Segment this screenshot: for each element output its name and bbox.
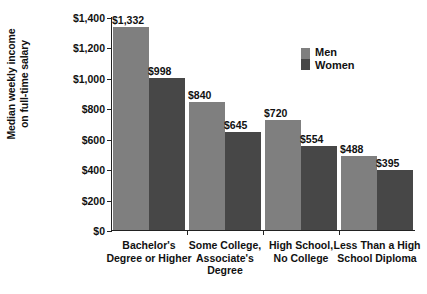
y-tick-mark: [107, 109, 111, 110]
bar-women: [377, 170, 413, 230]
x-category-label-line: Some College,: [181, 239, 269, 252]
legend-label-women: Women: [315, 60, 355, 71]
legend-labels: Men Women: [315, 47, 355, 71]
x-category-label: Less Than a HighSchool Diploma: [333, 239, 421, 264]
x-category-label-line: School Diploma: [333, 252, 421, 265]
x-group-separator-tick: [339, 231, 340, 235]
x-category-label: Some College,Associate'sDegree: [181, 239, 269, 277]
bar-value-label: $840: [188, 90, 211, 101]
y-axis-title-line2: on full-time salary: [18, 8, 31, 160]
legend-swatches: [301, 48, 310, 70]
y-axis-title: Median weekly income on full-time salary: [5, 8, 49, 160]
x-group-separator-tick: [263, 231, 264, 235]
bar-men: [113, 27, 149, 230]
x-category-label-line: No College: [257, 252, 345, 265]
y-axis-tick-labels: $1,400$1,200$1,000$800$600$400$200$0: [49, 0, 105, 294]
x-category-label: Bachelor'sDegree or Higher: [105, 239, 193, 264]
plot-area: [111, 17, 415, 231]
x-category-label-line: Associate's: [181, 252, 269, 265]
y-tick-mark: [107, 170, 111, 171]
bar-value-label: $998: [148, 66, 171, 77]
x-category-label: High School,No College: [257, 239, 345, 264]
y-axis-title-line1: Median weekly income: [5, 8, 18, 160]
x-category-label-line: Less Than a High: [333, 239, 421, 252]
bar-women: [225, 132, 261, 230]
bar-value-label: $645: [224, 120, 247, 131]
bar-value-label: $720: [264, 108, 287, 119]
bar-value-label: $395: [376, 158, 399, 169]
y-tick-label: $200: [49, 196, 105, 206]
y-tick-mark: [107, 79, 111, 80]
x-group-separator-tick: [187, 231, 188, 235]
y-tick-label: $800: [49, 104, 105, 114]
y-tick-mark: [107, 201, 111, 202]
legend-swatch-women: [301, 59, 310, 70]
y-tick-mark: [107, 140, 111, 141]
y-tick-label: $1,200: [49, 43, 105, 53]
y-tick-label: $600: [49, 135, 105, 145]
x-category-label-line: Degree or Higher: [105, 252, 193, 265]
x-category-label-line: Degree: [181, 264, 269, 277]
y-tick-label: $1,400: [49, 13, 105, 23]
y-tick-mark: [107, 231, 111, 232]
y-tick-label: $1,000: [49, 74, 105, 84]
legend-label-men: Men: [315, 47, 355, 58]
bar-men: [341, 156, 377, 230]
bar-value-label: $554: [300, 134, 323, 145]
bar-value-label: $1,332: [112, 15, 144, 26]
y-tick-label: $0: [49, 226, 105, 236]
bar-chart: Median weekly income on full-time salary…: [0, 0, 427, 294]
legend: Men Women: [301, 47, 355, 71]
x-category-label-line: High School,: [257, 239, 345, 252]
bar-women: [149, 78, 185, 230]
y-tick-mark: [107, 48, 111, 49]
bar-value-label: $488: [340, 144, 363, 155]
bar-men: [265, 120, 301, 230]
bar-women: [301, 146, 337, 230]
legend-swatch-men: [301, 48, 310, 59]
y-tick-mark: [107, 18, 111, 19]
y-axis-line: [111, 17, 112, 232]
y-tick-label: $400: [49, 165, 105, 175]
bar-men: [189, 102, 225, 230]
x-category-label-line: Bachelor's: [105, 239, 193, 252]
